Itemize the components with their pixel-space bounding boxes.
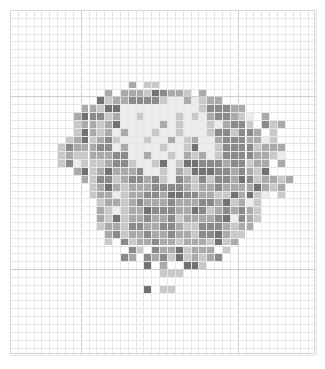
grid-cell [120,214,128,222]
grid-cell [222,206,230,214]
major-grid-line-horizontal [10,269,316,270]
grid-line-horizontal [10,128,316,129]
grid-cell [206,206,214,214]
pixel-grid [10,10,316,355]
grid-cell [151,206,159,214]
grid-line-horizontal [10,355,316,356]
grid-cell [151,222,159,230]
grid-cell [277,175,285,183]
grid-line-horizontal [10,230,316,231]
grid-cell [167,104,175,112]
grid-cell [104,96,112,104]
grid-cell [151,104,159,112]
grid-cell [175,151,183,159]
grid-cell [159,159,167,167]
grid-cell [96,167,104,175]
grid-line-horizontal [10,18,316,19]
grid-cell [206,151,214,159]
grid-cell [159,261,167,269]
grid-line-horizontal [10,246,316,247]
grid-cell [167,269,175,277]
grid-cell [214,112,222,120]
grid-cell [206,112,214,120]
grid-line-horizontal [10,151,316,152]
grid-cell [261,175,269,183]
grid-cell [167,167,175,175]
grid-cell [104,120,112,128]
grid-cell [206,214,214,222]
grid-cell [104,159,112,167]
grid-cell [167,175,175,183]
grid-cell [175,96,183,104]
grid-cell [120,206,128,214]
grid-cell [112,120,120,128]
grid-cell [151,151,159,159]
grid-cell [214,151,222,159]
grid-cell [269,151,277,159]
grid-cell [151,96,159,104]
grid-cell [112,214,120,222]
grid-cell [104,175,112,183]
grid-line-horizontal [10,261,316,262]
grid-cell [261,112,269,120]
grid-line-horizontal [10,214,316,215]
grid-line-horizontal [10,57,316,58]
grid-cell [214,214,222,222]
grid-cell [120,159,128,167]
grid-cell [104,222,112,230]
grid-cell [206,222,214,230]
grid-cell [175,175,183,183]
grid-cell [120,151,128,159]
grid-cell [159,253,167,261]
grid-cell [175,214,183,222]
grid-cell [159,151,167,159]
grid-cell [96,206,104,214]
grid-cell [112,159,120,167]
grid-cell [151,175,159,183]
grid-cell [222,120,230,128]
grid-cell [222,151,230,159]
grid-cell [222,159,230,167]
grid-cell [261,120,269,128]
grid-line-horizontal [10,143,316,144]
grid-cell [175,167,183,175]
grid-cell [57,159,65,167]
grid-line-horizontal [10,308,316,309]
grid-line-horizontal [10,73,316,74]
grid-line-horizontal [10,183,316,184]
grid-cell [175,112,183,120]
grid-cell [120,112,128,120]
grid-cell [167,96,175,104]
grid-cell [214,120,222,128]
grid-cell [112,206,120,214]
grid-cell [104,151,112,159]
grid-line-horizontal [10,191,316,192]
grid-cell [253,206,261,214]
grid-cell [253,151,261,159]
grid-line-horizontal [10,206,316,207]
grid-cell [151,253,159,261]
grid-cell [175,120,183,128]
grid-cell [167,222,175,230]
grid-cell [175,269,183,277]
grid-line-horizontal [10,136,316,137]
grid-cell [175,253,183,261]
grid-cell [253,175,261,183]
grid-line-horizontal [10,41,316,42]
grid-cell [206,175,214,183]
grid-line-horizontal [10,348,316,349]
grid-cell [214,206,222,214]
grid-line-horizontal [10,238,316,239]
grid-cell [214,175,222,183]
grid-line-horizontal [10,175,316,176]
grid-cell [206,167,214,175]
grid-cell [96,175,104,183]
grid-cell [96,222,104,230]
grid-cell [112,112,120,120]
grid-cell [159,269,167,277]
grid-cell [112,175,120,183]
grid-line-horizontal [10,316,316,317]
grid-line-horizontal [10,198,316,199]
grid-line-horizontal [10,10,316,11]
grid-cell [277,151,285,159]
